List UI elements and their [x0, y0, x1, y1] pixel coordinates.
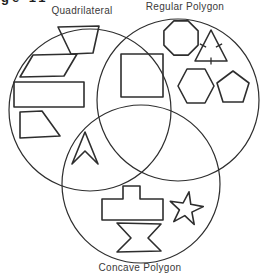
set-circle-concave-polygon: [62, 105, 220, 263]
label-concave-polygon: Concave Polygon: [99, 262, 182, 273]
label-quadrilateral: Quadrilateral: [51, 5, 112, 16]
hexagon-shape: [178, 69, 214, 103]
octagon-shape: [164, 21, 198, 55]
equilateral-triangle-shape: [195, 30, 227, 61]
five-point-star-shape: [170, 192, 203, 225]
hourglass-shape: [117, 223, 161, 252]
pentagon-shape: [217, 71, 249, 102]
rectangle-shape: [14, 82, 84, 107]
dart-arrowhead-shape: [72, 132, 98, 164]
label-regular-polygon: Regular Polygon: [146, 1, 224, 12]
set-circle-regular-polygon: [97, 19, 259, 181]
t-block-shape: [102, 186, 163, 220]
venn-diagram: [0, 0, 261, 275]
square-shape: [121, 54, 163, 97]
right-trapezoid-shape: [20, 111, 60, 138]
